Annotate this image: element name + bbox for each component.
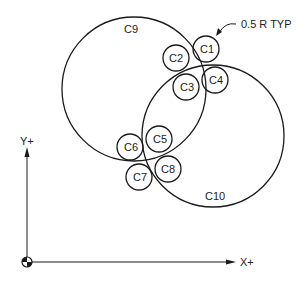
- x-axis-label: X+: [240, 256, 254, 268]
- y-axis-arrowhead-icon: [25, 147, 30, 157]
- label-c7: C7: [133, 171, 147, 183]
- label-c1: C1: [200, 43, 214, 55]
- annotation-label: 0.5 R TYP: [241, 18, 292, 30]
- label-c10: C10: [205, 190, 225, 202]
- label-c2: C2: [169, 52, 183, 64]
- label-c5: C5: [153, 133, 167, 145]
- circle-layout-diagram: C9 C10 C1 C2 C3 C4 C5 C6 C7 C8 0.5 R TYP…: [0, 0, 307, 288]
- label-c3: C3: [180, 81, 194, 93]
- origin-datum-icon: [22, 257, 32, 267]
- label-c8: C8: [161, 163, 175, 175]
- y-axis-label: Y+: [20, 135, 34, 147]
- x-axis-arrowhead-icon: [226, 260, 236, 265]
- label-c9: C9: [124, 23, 138, 35]
- label-c4: C4: [209, 74, 223, 86]
- label-c6: C6: [124, 141, 138, 153]
